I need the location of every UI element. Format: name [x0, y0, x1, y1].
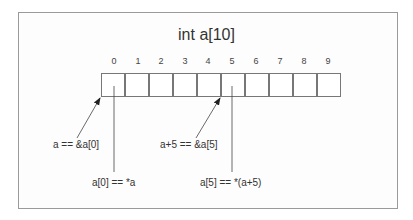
arrow-a5-to-a5 — [196, 98, 220, 138]
label-a-eq-addr-a0: a == &a[0] — [53, 139, 99, 150]
label-a0-eq-deref-a: a[0] == *a — [92, 177, 135, 188]
label-a5-eq-deref-a5: a[5] == *(a+5) — [200, 177, 261, 188]
arrow-a-to-a0 — [77, 98, 100, 138]
label-a5-eq-addr-a5: a+5 == &a[5] — [160, 139, 218, 150]
